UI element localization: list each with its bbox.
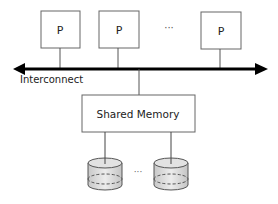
bus-arrow-right-icon: [255, 63, 268, 75]
storage-disk-icon-1: [88, 158, 122, 190]
interconnect-label: Interconnect: [20, 75, 83, 85]
processor-label-2: P: [116, 25, 123, 36]
processor-label-1: P: [57, 25, 64, 36]
shared-memory-label: Shared Memory: [96, 109, 179, 120]
storage-disk-icon-2: [154, 158, 188, 190]
processor-label-3: P: [218, 26, 225, 37]
processor-ellipsis: ···: [164, 23, 174, 33]
disk-ellipsis: ···: [134, 168, 143, 177]
